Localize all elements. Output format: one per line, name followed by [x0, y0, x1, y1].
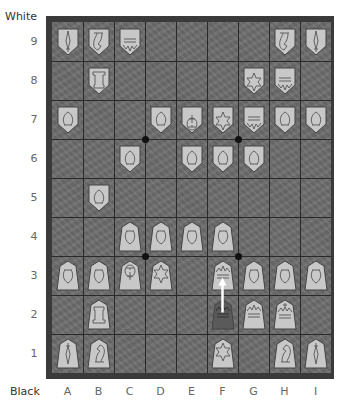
rank-label-1: 1	[24, 347, 44, 360]
file-label-e: E	[176, 385, 207, 398]
file-label-g: G	[238, 385, 269, 398]
file-label-h: H	[269, 385, 300, 398]
rank-label-8: 8	[24, 74, 44, 87]
shogi-board[interactable]	[52, 22, 331, 373]
file-label-d: D	[145, 385, 176, 398]
file-label-a: A	[52, 385, 83, 398]
rank-label-5: 5	[24, 191, 44, 204]
file-label-i: I	[300, 385, 331, 398]
rank-label-3: 3	[24, 269, 44, 282]
rank-label-7: 7	[24, 113, 44, 126]
file-label-f: F	[207, 385, 238, 398]
top-player-label: White	[5, 10, 37, 23]
rank-label-6: 6	[24, 152, 44, 165]
rank-label-2: 2	[24, 308, 44, 321]
bottom-player-label: Black	[10, 385, 40, 398]
file-label-b: B	[83, 385, 114, 398]
file-label-c: C	[114, 385, 145, 398]
rank-label-4: 4	[24, 230, 44, 243]
rank-label-9: 9	[24, 35, 44, 48]
